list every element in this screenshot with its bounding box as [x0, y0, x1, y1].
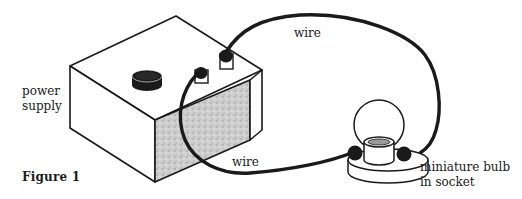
circuit-diagram: power supply wire wire miniature bulb in… — [0, 0, 522, 199]
power-supply-label-line1: power — [22, 84, 60, 98]
figure-caption: Figure 1 — [22, 170, 80, 184]
socket-terminal-right — [397, 147, 412, 162]
wire-label-top: wire — [294, 26, 321, 40]
bulb-label-line2: in socket — [420, 175, 475, 189]
wire-label-bottom: wire — [232, 155, 259, 169]
knob-icon — [132, 70, 162, 91]
miniature-bulb-in-socket — [348, 100, 428, 183]
power-supply-label-line2: supply — [22, 99, 62, 113]
bulb-label-line1: miniature bulb — [420, 160, 510, 174]
socket-terminal-left — [348, 146, 363, 161]
